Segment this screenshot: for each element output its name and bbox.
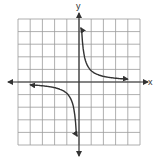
curve-branch-quadrant-I bbox=[81, 28, 128, 79]
x-axis-label: x bbox=[148, 78, 153, 87]
y-axis-label: y bbox=[76, 2, 81, 11]
hyperbola-graph bbox=[0, 0, 162, 166]
axes bbox=[8, 13, 148, 156]
curve-branch-quadrant-III bbox=[30, 85, 77, 136]
